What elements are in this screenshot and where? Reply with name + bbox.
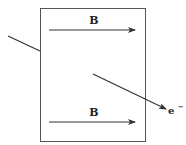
electron-symbol: e [168, 105, 174, 116]
electron-charge: − [178, 102, 184, 111]
diagram-canvas: B e − B [0, 0, 186, 145]
outgoing-electron-path [93, 74, 166, 109]
electron-label: e − [168, 102, 184, 116]
field-label-top: B [89, 14, 98, 27]
field-label-bottom: B [89, 106, 98, 119]
incoming-electron-path [8, 36, 40, 51]
